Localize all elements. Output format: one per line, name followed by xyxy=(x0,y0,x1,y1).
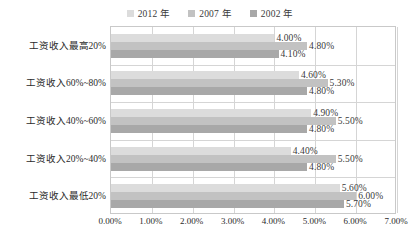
bar-value-label: 5.70% xyxy=(344,199,371,209)
bar[interactable] xyxy=(111,34,274,42)
bar[interactable] xyxy=(111,79,328,87)
category-label: 工资收入最高20% xyxy=(29,38,106,52)
bar[interactable] xyxy=(111,155,336,163)
bar-line: 4.80% xyxy=(111,42,395,50)
bar[interactable] xyxy=(111,184,340,192)
bar-value-label: 4.80% xyxy=(307,162,334,172)
bar[interactable] xyxy=(111,147,291,155)
bar[interactable] xyxy=(111,192,356,200)
bar[interactable] xyxy=(111,125,307,133)
bar-group: 4.00%4.80%4.10% xyxy=(111,27,395,65)
category-axis-labels: 工资收入最高20%工资收入60%~80%工资收入40%~60%工资收入20%~4… xyxy=(0,26,108,214)
bar[interactable] xyxy=(111,50,279,58)
bar-chart: 2012 年 2007 年 2002 年 工资收入最高20%工资收入60%~80… xyxy=(0,0,420,242)
bar-line: 4.80% xyxy=(111,125,395,133)
legend-label-2012: 2012 年 xyxy=(138,6,171,20)
bar-rows: 4.00%4.80%4.10%4.60%5.30%4.80%4.90%5.50%… xyxy=(111,27,395,213)
x-axis-labels: 0.00%1.00%2.00%3.00%4.00%5.00%6.00%7.00% xyxy=(110,216,396,232)
bar[interactable] xyxy=(111,200,344,208)
bar-line: 4.10% xyxy=(111,50,395,58)
legend-item-2007[interactable]: 2007 年 xyxy=(188,6,232,20)
plot-area: 4.00%4.80%4.10%4.60%5.30%4.80%4.90%5.50%… xyxy=(110,26,396,214)
bar[interactable] xyxy=(111,109,311,117)
bar-value-label: 4.10% xyxy=(279,49,306,59)
x-tick-label: 3.00% xyxy=(221,216,244,226)
legend-item-2012[interactable]: 2012 年 xyxy=(127,6,171,20)
bar-value-label: 4.80% xyxy=(307,86,334,96)
x-tick-label: 0.00% xyxy=(98,216,121,226)
gridline xyxy=(397,27,398,213)
legend-swatch-icon-2002 xyxy=(250,10,257,17)
bar-line: 4.80% xyxy=(111,163,395,171)
bar-line: 5.70% xyxy=(111,200,395,208)
x-tick-label: 6.00% xyxy=(344,216,367,226)
bar-group: 4.40%5.50%4.80% xyxy=(111,140,395,178)
category-label: 工资收入40%~60% xyxy=(26,113,106,127)
bar-line: 5.30% xyxy=(111,79,395,87)
category-label: 工资收入20%~40% xyxy=(26,151,106,165)
bar-group: 5.60%6.00%5.70% xyxy=(111,177,395,215)
bar-line: 4.00% xyxy=(111,34,395,42)
x-tick-label: 7.00% xyxy=(384,216,407,226)
bar-line: 5.50% xyxy=(111,117,395,125)
bar[interactable] xyxy=(111,87,307,95)
bar-group: 4.90%5.50%4.80% xyxy=(111,102,395,140)
x-tick-label: 5.00% xyxy=(303,216,326,226)
bar[interactable] xyxy=(111,117,336,125)
chart-legend: 2012 年 2007 年 2002 年 xyxy=(0,6,420,20)
category-label: 工资收入最低20% xyxy=(29,188,106,202)
bar-value-label: 4.80% xyxy=(307,124,334,134)
bar-line: 4.80% xyxy=(111,87,395,95)
bar-line: 5.50% xyxy=(111,155,395,163)
bar-group: 4.60%5.30%4.80% xyxy=(111,65,395,103)
legend-swatch-icon-2012 xyxy=(127,10,134,17)
category-label: 工资收入60%~80% xyxy=(26,75,106,89)
x-tick-label: 2.00% xyxy=(180,216,203,226)
x-tick-label: 4.00% xyxy=(262,216,285,226)
legend-label-2007: 2007 年 xyxy=(199,6,232,20)
legend-label-2002: 2002 年 xyxy=(261,6,294,20)
x-tick-label: 1.00% xyxy=(139,216,162,226)
bar[interactable] xyxy=(111,71,299,79)
legend-swatch-icon-2007 xyxy=(188,10,195,17)
legend-item-2002[interactable]: 2002 年 xyxy=(250,6,294,20)
bar-line: 5.60% xyxy=(111,184,395,192)
bar[interactable] xyxy=(111,163,307,171)
